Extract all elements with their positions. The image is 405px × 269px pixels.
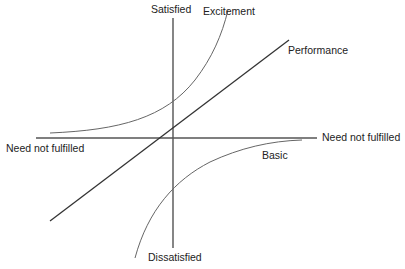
curve-label-performance: Performance — [288, 45, 348, 56]
curve-label-excitement: Excitement — [203, 6, 255, 17]
excitement-curve — [50, 10, 228, 133]
kano-diagram: Satisfied Excitement Performance Need no… — [0, 0, 405, 269]
axis-label-satisfied: Satisfied — [151, 4, 191, 15]
curve-label-basic: Basic — [262, 150, 288, 161]
axis-label-left-need-not-fulfilled: Need not fulfilled — [6, 143, 84, 154]
axis-label-dissatisfied: Dissatisfied — [148, 252, 202, 263]
axis-label-right-need-not-fulfilled: Need not fulfilled — [322, 132, 400, 143]
